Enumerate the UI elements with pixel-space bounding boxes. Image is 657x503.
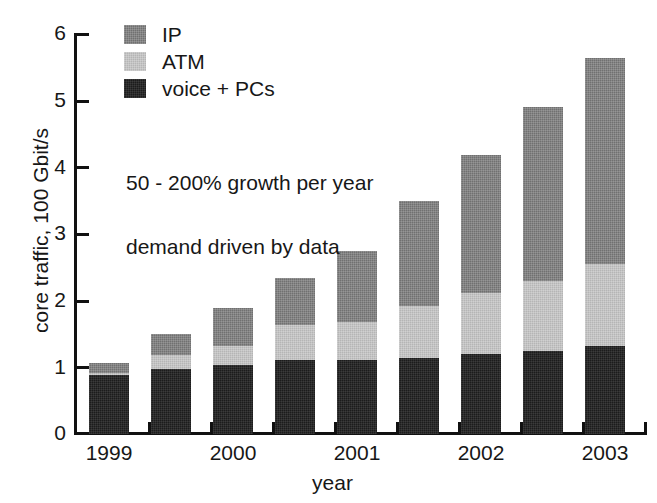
ip-segment (337, 251, 377, 323)
bar-2001-5 (399, 201, 439, 434)
y-tick-3 (76, 233, 89, 236)
voice-segment (399, 358, 439, 434)
y-tick-2 (76, 300, 89, 303)
atm-segment (523, 281, 563, 351)
x-tick-label-2000: 2000 (193, 442, 273, 463)
voice-segment (275, 360, 315, 434)
x-tick-label-2001: 2001 (317, 442, 397, 463)
atm-segment (461, 293, 501, 354)
voice-swatch-icon (124, 79, 146, 98)
atm-segment (151, 355, 191, 369)
y-tick-label-0: 0 (40, 422, 66, 443)
ip-segment (151, 334, 191, 355)
y-tick-0 (76, 432, 89, 435)
atm-segment (585, 264, 625, 346)
bar-2001 (337, 251, 377, 434)
bar-2003 (585, 58, 625, 434)
bar-1999-5 (151, 334, 191, 434)
atm-swatch-icon (124, 52, 146, 71)
y-tick-6 (76, 33, 89, 36)
annotation-growth: 50 - 200% growth per year (126, 172, 373, 193)
bar-2002 (461, 155, 501, 434)
chart-legend: IP ATM voice + PCs (124, 22, 275, 103)
voice-segment (213, 365, 253, 434)
voice-segment (585, 346, 625, 434)
bar-2000-5 (275, 278, 315, 434)
ip-segment (213, 308, 253, 346)
bar-1999 (89, 363, 129, 434)
voice-segment (337, 360, 377, 434)
y-tick-1 (76, 366, 89, 369)
y-axis-title: core traffic, 100 Gbit/s (30, 71, 51, 391)
bar-2000 (213, 308, 253, 434)
y-tick-label-6: 6 (40, 22, 66, 43)
ip-segment (89, 363, 129, 373)
ip-swatch-icon (124, 25, 146, 44)
y-tick-4 (76, 166, 89, 169)
legend-item-voice: voice + PCs (124, 76, 275, 101)
ip-segment (461, 155, 501, 293)
x-tick-label-2002: 2002 (441, 442, 521, 463)
x-tick-label-2003: 2003 (565, 442, 645, 463)
legend-item-atm: ATM (124, 49, 275, 74)
atm-segment (275, 325, 315, 360)
voice-segment (523, 351, 563, 434)
atm-segment (337, 322, 377, 360)
bar-2002-5 (523, 107, 563, 434)
voice-segment (89, 375, 129, 434)
ip-segment (275, 278, 315, 325)
atm-segment (399, 306, 439, 357)
annotation-demand: demand driven by data (126, 236, 340, 257)
x-axis-right-cap (644, 422, 647, 434)
legend-item-ip: IP (124, 22, 275, 47)
ip-segment (585, 58, 625, 264)
voice-segment (151, 369, 191, 434)
ip-segment (399, 201, 439, 307)
legend-label-ip: IP (162, 24, 182, 45)
legend-label-atm: ATM (162, 51, 205, 72)
x-axis-title: year (0, 472, 657, 493)
plot-area: 6 5 4 3 2 1 0 1999 2000 2001 2002 2003 I… (0, 0, 657, 503)
x-axis-title-text: year (312, 472, 353, 493)
atm-segment (213, 346, 253, 365)
x-tick-label-1999: 1999 (69, 442, 149, 463)
y-tick-5 (76, 100, 89, 103)
chart-figure: 6 5 4 3 2 1 0 1999 2000 2001 2002 2003 I… (0, 0, 657, 503)
legend-label-voice: voice + PCs (162, 78, 275, 99)
voice-segment (461, 354, 501, 434)
ip-segment (523, 107, 563, 281)
